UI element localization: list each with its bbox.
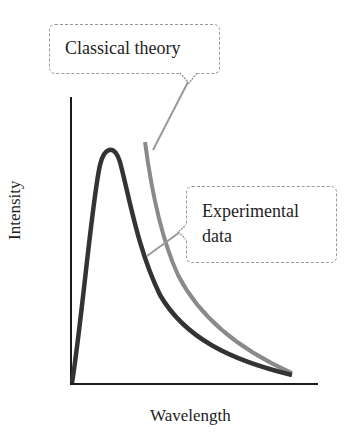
x-axis-label: Wavelength xyxy=(150,405,231,426)
experimental-data-callout: Experimental data xyxy=(186,186,337,263)
experimental-data-curve xyxy=(72,150,292,383)
classical-theory-label: Classical theory xyxy=(65,37,180,60)
classical-theory-callout: Classical theory xyxy=(49,24,220,74)
y-axis-label: Intensity xyxy=(4,181,25,241)
classical-pointer-line xyxy=(153,82,188,150)
experimental-label-line1: Experimental xyxy=(202,200,299,223)
experimental-label-line2: data xyxy=(202,225,232,248)
